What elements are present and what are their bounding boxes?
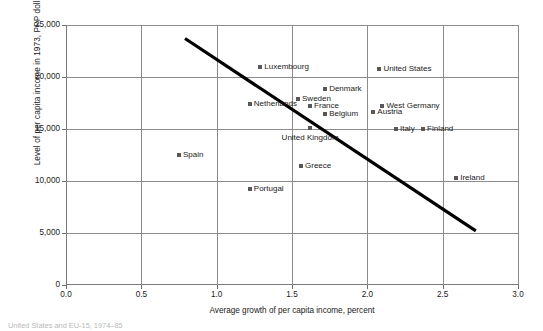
x-tick-mark <box>217 285 218 289</box>
x-tick-label: 2.5 <box>418 291 468 299</box>
y-axis-tick-labels: 05,00010,00015,00020,00025,000 <box>0 0 60 331</box>
data-point-marker <box>299 164 303 168</box>
data-point-marker <box>421 127 425 131</box>
y-tick-label: 5,000 <box>0 229 60 237</box>
x-tick-mark <box>518 285 519 289</box>
data-point-label: Ireland <box>460 174 484 182</box>
data-point-marker <box>177 153 181 157</box>
data-point-label: Greece <box>305 162 331 170</box>
x-tick-label: 0.0 <box>41 291 91 299</box>
data-point-label: Luxembourg <box>264 63 308 71</box>
data-point-marker <box>323 112 327 116</box>
x-tick-label: 0.5 <box>116 291 166 299</box>
data-point-marker <box>394 127 398 131</box>
data-point-marker <box>323 87 327 91</box>
y-tick-label: 10,000 <box>0 177 60 185</box>
x-tick-mark <box>292 285 293 289</box>
x-tick-label: 1.0 <box>192 291 242 299</box>
scatter-chart: Level of per capita income in 1973, PPP … <box>0 0 543 331</box>
data-point-label: United States <box>383 65 431 73</box>
y-tick-label: 25,000 <box>0 21 60 29</box>
data-point-label: Finland <box>427 125 453 133</box>
data-point-label: Italy <box>400 125 415 133</box>
x-tick-mark <box>367 285 368 289</box>
data-point-label: Spain <box>183 151 203 159</box>
figure-caption: United States and EU-15, 1974–85 <box>8 321 123 330</box>
x-tick-label: 3.0 <box>493 291 543 299</box>
data-point-label: Austria <box>377 108 402 116</box>
data-point-marker <box>248 102 252 106</box>
data-point-label: Belgium <box>329 110 358 118</box>
data-point-marker <box>454 176 458 180</box>
plot-area: LuxembourgUnited StatesDenmarkSwedenNeth… <box>66 25 518 285</box>
data-point-marker <box>248 187 252 191</box>
x-tick-mark <box>141 285 142 289</box>
y-tick-label: 0 <box>0 281 60 289</box>
x-tick-mark <box>443 285 444 289</box>
y-tick-label: 20,000 <box>0 73 60 81</box>
gridline-vertical <box>518 25 519 285</box>
y-tick-label: 15,000 <box>0 125 60 133</box>
x-axis-title: Average growth of per capita income, per… <box>66 306 518 315</box>
x-tick-label: 2.0 <box>342 291 392 299</box>
data-point-label: United Kingdom <box>282 134 339 142</box>
data-point-label: Portugal <box>254 185 284 193</box>
data-point-marker <box>308 104 312 108</box>
data-point-marker <box>377 67 381 71</box>
data-point-label: Denmark <box>329 85 361 93</box>
data-point-marker <box>258 65 262 69</box>
data-point-marker <box>308 126 312 130</box>
x-tick-label: 1.5 <box>267 291 317 299</box>
data-point-label: Netherlands <box>254 100 297 108</box>
x-tick-mark <box>66 285 67 289</box>
data-point-marker <box>371 110 375 114</box>
